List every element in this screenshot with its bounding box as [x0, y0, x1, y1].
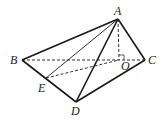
- diagram-canvas: A B C D E O: [0, 0, 167, 130]
- edge-AB: [22, 19, 118, 60]
- pyramid-diagram: A B C D E O: [0, 0, 167, 130]
- edge-AC: [118, 19, 145, 60]
- label-A: A: [113, 4, 122, 18]
- label-D: D: [70, 104, 80, 118]
- edge-AO-dashed: [118, 19, 119, 60]
- label-O: O: [121, 59, 130, 73]
- label-E: E: [37, 81, 46, 95]
- edge-BD: [22, 60, 76, 102]
- label-B: B: [10, 53, 18, 67]
- label-C: C: [148, 53, 157, 67]
